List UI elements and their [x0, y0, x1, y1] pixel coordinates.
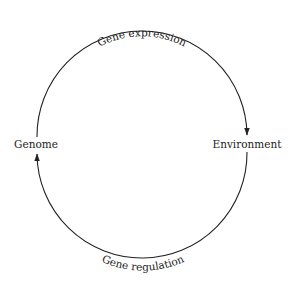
gene-expression-label: Gene expression	[95, 26, 189, 49]
environment-node-label: Environment	[213, 138, 283, 150]
genome-node-label: Genome	[14, 138, 58, 150]
feedback-cycle-diagram: Gene expression Gene regulation Genome E…	[0, 0, 291, 284]
gene-expression-arc	[37, 31, 247, 137]
gene-regulation-label: Gene regulation	[100, 252, 185, 272]
gene-regulation-arc	[37, 152, 247, 258]
